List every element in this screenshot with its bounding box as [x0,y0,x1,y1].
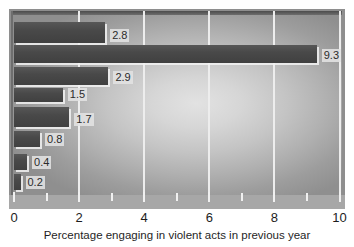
x-tick-label-4: 4 [129,210,159,225]
x-tick-label-8: 8 [259,210,289,225]
bar [14,154,27,170]
bar-value-label: 0.2 [26,176,45,189]
bar [14,88,63,102]
x-tick-minor-7 [241,193,243,201]
x-tick-major-2 [78,192,80,202]
bar-value-label: 9.3 [322,49,341,62]
x-axis-title: Percentage engaging in violent acts in p… [0,228,354,242]
x-tick-major-4 [143,192,145,202]
bar-value-label: 1.7 [74,113,93,126]
x-tick-label-10: 10 [325,210,354,225]
gridline-6 [208,11,210,203]
gridline-8 [273,11,275,203]
bar [14,45,317,63]
bar-value-label: 0.4 [32,156,51,169]
x-tick-label-0: 0 [0,210,29,225]
bar [14,107,69,127]
bar-chart-figure: 2.89.32.91.51.70.80.40.2 0246810 Percent… [0,0,354,247]
bar [14,131,40,147]
bar-value-label: 0.8 [45,133,64,146]
gridline-4 [143,11,145,203]
x-tick-label-2: 2 [64,210,94,225]
bar [14,22,105,43]
plot-left-edge [11,11,13,203]
bar-value-label: 1.5 [68,88,87,101]
x-tick-major-8 [273,192,275,202]
bar-value-label: 2.9 [113,71,132,84]
x-tick-major-10 [339,192,341,202]
x-tick-major-6 [208,192,210,202]
plot-area: 2.89.32.91.51.70.80.40.2 [11,11,342,203]
bar [14,174,21,190]
gridline-10 [339,11,341,203]
x-tick-minor-5 [176,193,178,201]
x-tick-minor-9 [306,193,308,201]
x-tick-minor-3 [111,193,113,201]
bar-value-label: 2.8 [110,29,129,42]
x-tick-major-0 [13,192,15,202]
x-tick-label-6: 6 [194,210,224,225]
bar [14,67,108,85]
plot-top-edge [11,11,342,15]
x-tick-minor-1 [46,193,48,201]
